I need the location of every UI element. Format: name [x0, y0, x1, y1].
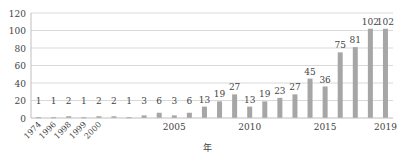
data-label: 27	[229, 82, 241, 92]
bar	[277, 98, 282, 118]
y-tick-label: 60	[15, 61, 27, 71]
data-label: 1	[81, 96, 87, 106]
data-label: 2	[96, 96, 102, 106]
y-tick-label: 100	[9, 26, 26, 36]
data-label: 23	[274, 86, 286, 96]
data-label: 75	[334, 40, 346, 50]
bar	[368, 29, 373, 118]
data-label: 45	[304, 67, 316, 77]
data-label: 6	[187, 96, 193, 106]
y-axis-ticks: 020406080100120	[9, 9, 26, 124]
x-tick-label: 2015	[314, 122, 337, 132]
y-tick-label: 0	[20, 114, 26, 124]
x-tick-label: 2005	[163, 122, 186, 132]
bar	[247, 107, 252, 118]
x-tick-label: 2019	[374, 122, 397, 132]
bar	[262, 101, 267, 118]
data-label: 3	[171, 96, 177, 106]
y-tick-label: 40	[15, 79, 27, 89]
data-label: 19	[214, 89, 226, 99]
x-axis-ticks: 197419961998199920002005201020152019	[22, 120, 397, 141]
data-label: 102	[377, 17, 394, 27]
bar	[308, 79, 313, 118]
y-tick-label: 80	[15, 44, 27, 54]
data-label: 1	[126, 96, 132, 106]
data-label: 2	[111, 96, 117, 106]
y-tick-label: 120	[9, 9, 26, 19]
x-axis-title: 年	[203, 142, 212, 153]
x-tick-label: 2000	[83, 120, 104, 141]
x-tick-label: 2010	[238, 122, 261, 132]
bar	[383, 29, 388, 118]
bar	[217, 101, 222, 118]
data-label: 1	[36, 96, 42, 106]
data-label: 81	[350, 35, 361, 45]
data-label: 1	[51, 96, 57, 106]
data-label: 2	[66, 96, 72, 106]
bar	[292, 94, 297, 118]
data-label: 19	[259, 89, 271, 99]
bar-chart: 020406080100120 112122136361319271319232…	[0, 0, 398, 159]
chart-canvas: 020406080100120 112122136361319271319232…	[0, 0, 398, 159]
bar	[202, 107, 207, 118]
data-label: 27	[289, 82, 301, 92]
data-label: 36	[319, 75, 331, 85]
bar	[187, 113, 192, 118]
data-label: 6	[156, 96, 162, 106]
bar	[338, 52, 343, 118]
bar	[157, 113, 162, 118]
data-label: 13	[199, 95, 211, 105]
bar	[353, 47, 358, 118]
bar	[232, 94, 237, 118]
y-tick-label: 20	[15, 96, 27, 106]
data-label: 13	[244, 95, 256, 105]
data-label: 3	[141, 96, 147, 106]
bar	[323, 87, 328, 119]
